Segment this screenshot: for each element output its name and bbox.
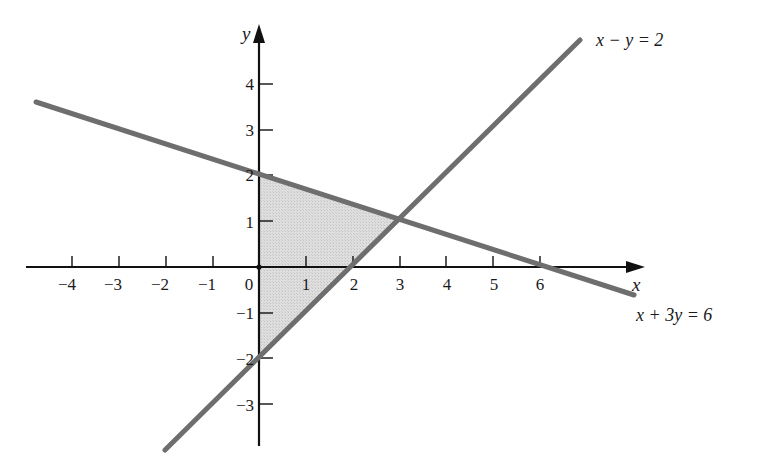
y-tick-label: 4	[246, 75, 255, 94]
x-tick-label: 5	[490, 275, 499, 294]
x-tick-label: −1	[198, 275, 216, 294]
y-axis-arrow-icon	[253, 24, 265, 43]
y-axis-label: y	[240, 23, 251, 44]
x-tick-label: −3	[104, 275, 122, 294]
x-ticks	[72, 256, 540, 267]
y-tick-label: 2	[246, 166, 255, 185]
y-tick-label: −2	[236, 350, 254, 369]
x-tick-label: 1	[302, 275, 311, 294]
chart: −4 −3 −2 −1 0 1 2 3 4 5 6 4 3 2 1 −1 −2 …	[0, 0, 763, 473]
y-tick-label: −1	[236, 304, 254, 323]
x-axis-label: x	[631, 274, 641, 295]
y-tick-label: 3	[246, 121, 255, 140]
line-x-minus-y-eq-2	[165, 40, 580, 450]
origin-point	[256, 264, 261, 269]
equation-label-x-minus-y: x − y = 2	[595, 30, 663, 50]
x-tick-label: −2	[151, 275, 169, 294]
y-tick-label: −3	[236, 396, 254, 415]
x-tick-label: −4	[58, 275, 77, 294]
y-tick-label: 1	[246, 213, 255, 232]
x-axis-arrow-icon	[626, 261, 645, 273]
equation-label-x-plus-3y: x + 3y = 6	[635, 305, 712, 325]
x-tick-label: 2	[350, 275, 359, 294]
x-tick-label: 0	[245, 275, 254, 294]
x-tick-label: 3	[396, 275, 405, 294]
x-tick-label: 6	[536, 275, 545, 294]
x-tick-label: 4	[443, 275, 452, 294]
